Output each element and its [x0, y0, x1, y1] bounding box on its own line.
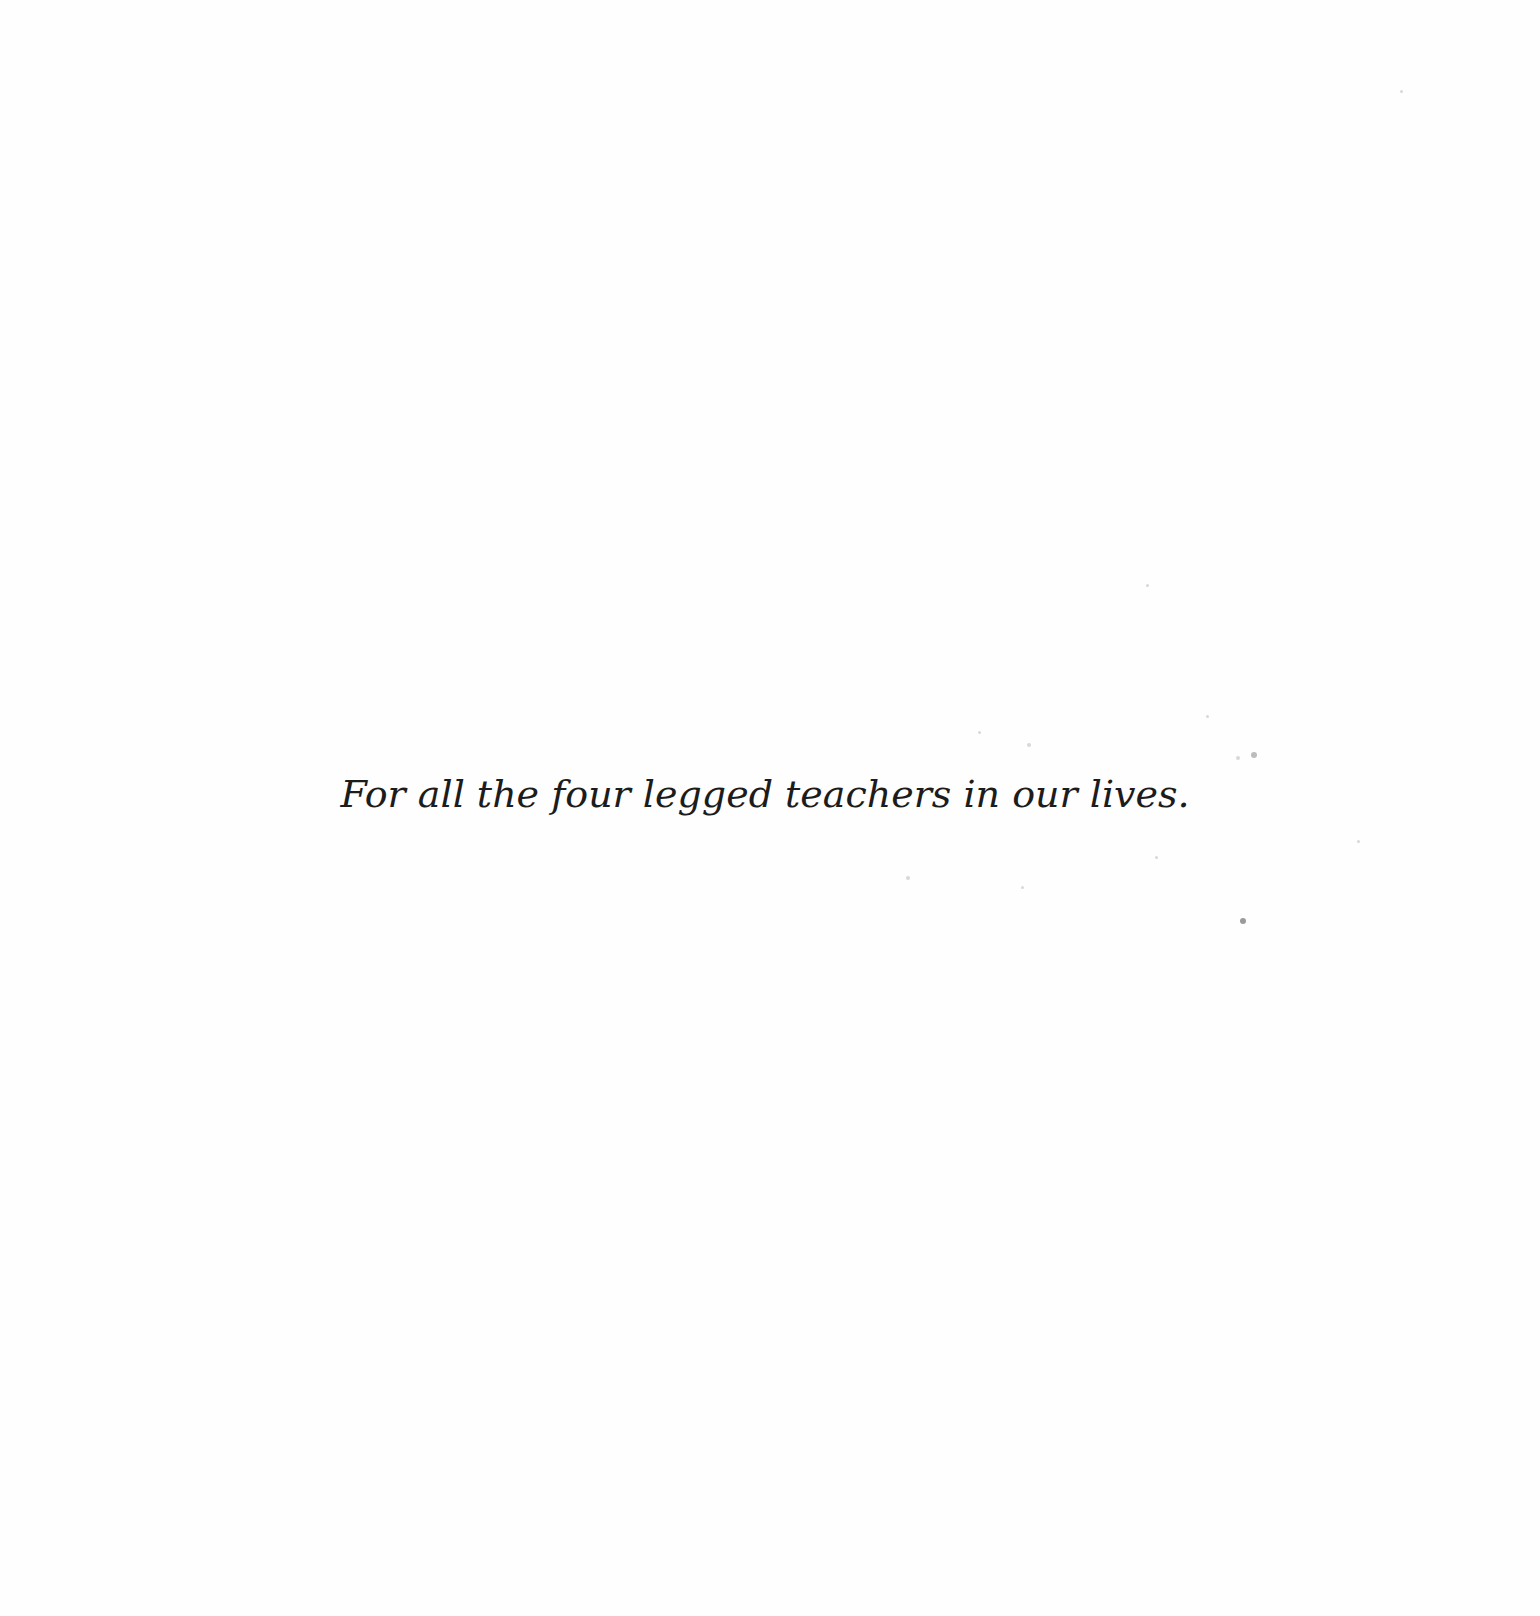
- scan-speck: [978, 731, 981, 734]
- scan-speck: [1206, 715, 1209, 718]
- scan-speck: [1146, 584, 1149, 587]
- scan-speck: [1236, 756, 1240, 760]
- dedication-page: For all the four legged teachers in our …: [0, 0, 1540, 1616]
- scan-speck: [1021, 886, 1024, 889]
- scan-speck: [906, 876, 910, 880]
- dedication-text: For all the four legged teachers in our …: [0, 766, 1540, 822]
- scan-speck: [1357, 840, 1360, 843]
- scan-speck: [1400, 90, 1403, 93]
- scan-speck: [1251, 752, 1257, 758]
- scan-speck: [1027, 743, 1031, 747]
- scan-speck: [1155, 856, 1158, 859]
- scan-speck: [1240, 918, 1246, 924]
